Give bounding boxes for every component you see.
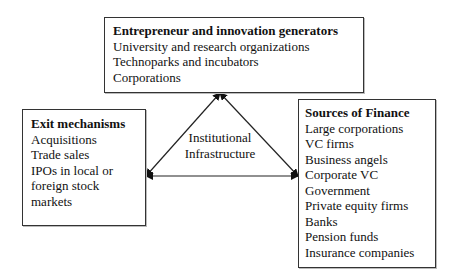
center-label-line: Infrastructure [160, 146, 280, 162]
list-item: VC firms [305, 136, 435, 152]
list-item: Business angels [305, 152, 435, 168]
list-item: Large corporations [305, 121, 435, 137]
list-item: Private equity firms [305, 198, 435, 214]
box-title: Exit mechanisms [31, 116, 145, 132]
list-item: Technoparks and incubators [113, 54, 363, 70]
box-title: Sources of Finance [305, 105, 435, 121]
list-item: Banks [305, 214, 435, 230]
list-item: markets [31, 194, 145, 210]
list-item: Trade sales [31, 147, 145, 163]
list-item: Corporations [113, 70, 363, 86]
list-item: Government [305, 183, 435, 199]
box-title: Entrepreneur and innovation generators [113, 23, 363, 39]
list-item: University and research organizations [113, 39, 363, 55]
institutional-infrastructure-label: Institutional Infrastructure [160, 130, 280, 162]
list-item: foreign stock [31, 178, 145, 194]
list-item: Acquisitions [31, 132, 145, 148]
list-item: Corporate VC [305, 167, 435, 183]
center-label-line: Institutional [160, 130, 280, 146]
list-item: Insurance companies [305, 245, 435, 261]
list-item: IPOs in local or [31, 163, 145, 179]
sources-of-finance-box: Sources of Finance Large corporations VC… [298, 99, 436, 268]
exit-mechanisms-box: Exit mechanisms Acquisitions Trade sales… [22, 109, 146, 226]
entrepreneur-innovation-box: Entrepreneur and innovation generators U… [104, 17, 364, 93]
list-item: Pension funds [305, 229, 435, 245]
